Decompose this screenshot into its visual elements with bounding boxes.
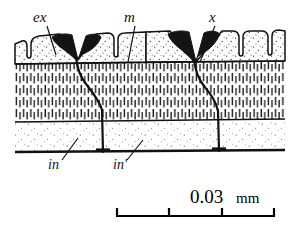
figure-page: ex m x in in' 0.03 mm bbox=[0, 0, 291, 230]
label-in-prime: in' bbox=[113, 157, 128, 172]
label-x: x bbox=[208, 9, 216, 25]
scale-bar: 0.03 mm bbox=[116, 186, 275, 216]
scale-bar-value: 0.03 bbox=[190, 186, 223, 207]
histology-figure: ex m x in in' 0.03 mm bbox=[0, 0, 291, 230]
label-m: m bbox=[124, 9, 135, 25]
inner-basal-layer bbox=[15, 119, 285, 152]
middle-columnar-layer bbox=[15, 61, 285, 122]
label-in: in bbox=[48, 157, 59, 172]
scale-bar-unit: mm bbox=[236, 190, 260, 206]
label-ex: ex bbox=[33, 9, 47, 25]
